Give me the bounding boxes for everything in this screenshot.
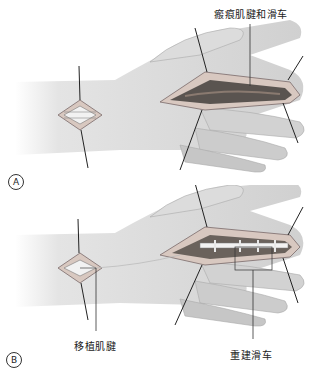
panel-a-scarred-tendon: 瘢痕肌腱和滑车 A [0, 0, 316, 185]
hand-illustration-a [0, 0, 316, 185]
label-graft-tendon: 移植肌腱 [74, 338, 116, 353]
panel-b-reconstruction: 移植肌腱 重建滑车 B [0, 185, 316, 374]
panel-badge-b: B [6, 352, 22, 368]
label-reconstructed-pulley: 重建滑车 [230, 347, 272, 362]
hand-illustration-b [0, 185, 316, 374]
label-scarred-tendon-pulley: 瘢痕肌腱和滑车 [214, 6, 288, 21]
